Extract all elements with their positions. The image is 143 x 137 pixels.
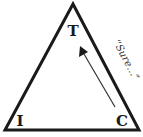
vertex-label-bottom-left: I bbox=[16, 112, 23, 130]
vertex-label-top: T bbox=[67, 22, 79, 40]
vertex-label-bottom-right: C bbox=[116, 112, 128, 130]
annotation-quote: “Sure…” bbox=[111, 38, 141, 82]
tic-triangle-diagram: T I C “Sure…” bbox=[0, 0, 143, 137]
